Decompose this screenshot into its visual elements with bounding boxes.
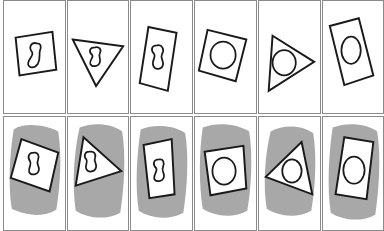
scribbled-square-figure-eight-icon: [4, 117, 65, 230]
panel-plain-triangle-circle: [258, 0, 321, 114]
panel-scribbled-rectangle-circle: [322, 116, 384, 231]
panel-scribbled-rectangle-figure-eight: [130, 116, 193, 231]
rectangle-figure-eight-icon: [131, 1, 192, 113]
panel-plain-rectangle-figure-eight: [130, 0, 193, 114]
square-circle-icon: [195, 1, 256, 113]
square-figure-eight-icon: [4, 1, 65, 113]
scribbled-square-circle-icon: [195, 117, 256, 230]
triangle-figure-eight-icon: [68, 1, 128, 113]
triangle-circle-icon: [259, 1, 320, 113]
panel-plain-square-circle: [194, 0, 257, 114]
scribbled-triangle-figure-eight-icon: [68, 117, 128, 230]
panel-scribbled-triangle-figure-eight: [67, 116, 129, 231]
rectangle-circle-icon: [323, 1, 383, 113]
scribbled-rectangle-figure-eight-icon: [131, 117, 192, 230]
panel-scribbled-triangle-circle: [258, 116, 321, 231]
scribbled-triangle-circle-icon: [259, 117, 320, 230]
panel-scribbled-square-circle: [194, 116, 257, 231]
panel-plain-triangle-figure-eight: [67, 0, 129, 114]
panel-plain-rectangle-circle: [322, 0, 384, 114]
panel-plain-square-figure-eight: [3, 0, 66, 114]
scribbled-rectangle-circle-icon: [323, 117, 383, 230]
panel-scribbled-square-figure-eight: [3, 116, 66, 231]
